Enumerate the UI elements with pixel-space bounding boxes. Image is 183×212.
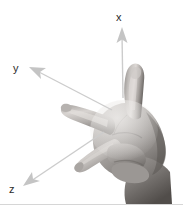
axis-label-x: x [116, 12, 122, 23]
axes-hand-figure: x y z [0, 0, 183, 212]
axis-label-y: y [13, 63, 19, 74]
axis-labels: x y z [0, 0, 183, 204]
bottom-margin [0, 205, 183, 212]
axis-label-z: z [9, 184, 15, 195]
figure-canvas: x y z [0, 0, 183, 204]
